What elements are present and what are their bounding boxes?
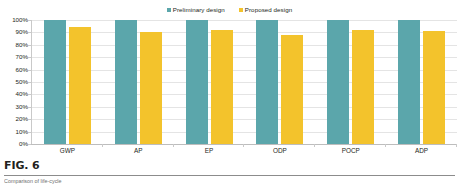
figure-caption-text: Comparison of life-cycle (4, 178, 455, 184)
bar-group-odp (244, 20, 315, 144)
y-axis-tick-mark (28, 45, 31, 46)
x-axis-tick-label-odp: ODP (244, 148, 315, 154)
y-axis-tick-label: 10% (16, 128, 28, 134)
bar-pocp-series-0[interactable] (327, 20, 349, 144)
bar-ap-series-0[interactable] (115, 20, 137, 144)
y-axis: 0%10%20%30%40%50%60%70%80%90%100% (0, 20, 30, 144)
x-axis-tick-label-gwp: GWP (32, 148, 103, 154)
figure-number: FIG. 6 (4, 160, 455, 172)
y-axis-tick-label: 50% (16, 79, 28, 85)
square-swatch-icon (167, 8, 171, 12)
y-axis-tick-label: 40% (16, 91, 28, 97)
chart-plot-area: 0%10%20%30%40%50%60%70%80%90%100% GWPAPE… (0, 20, 459, 158)
y-axis-tick-label: 0% (19, 141, 28, 147)
caption-divider (4, 175, 455, 176)
bar-odp-series-0[interactable] (256, 20, 278, 144)
y-axis-tick-mark (28, 57, 31, 58)
y-axis-tick-mark (28, 70, 31, 71)
bar-ep-series-0[interactable] (186, 20, 208, 144)
y-axis-tick-label: 100% (12, 17, 28, 23)
figure-caption-block: FIG. 6 Comparison of life-cycle (4, 160, 455, 184)
bar-group-ep (174, 20, 245, 144)
y-axis-tick-mark (28, 144, 31, 145)
bar-ap-series-1[interactable] (140, 32, 162, 144)
bar-group-ap (103, 20, 174, 144)
y-axis-tick-mark (28, 94, 31, 95)
legend-entry-preliminary-design[interactable]: Preliminary design (167, 7, 225, 13)
y-axis-tick-mark (28, 132, 31, 133)
y-axis-tick-mark (28, 32, 31, 33)
y-axis-tick-label: 80% (16, 42, 28, 48)
y-axis-tick-label: 20% (16, 116, 28, 122)
legend-label: Preliminary design (173, 7, 225, 13)
bar-group-pocp (315, 20, 386, 144)
figure-container: Preliminary design Proposed design 0%10%… (0, 0, 459, 190)
bar-gwp-series-0[interactable] (44, 20, 66, 144)
bar-odp-series-1[interactable] (281, 35, 303, 144)
x-axis-tick-label-pocp: POCP (315, 148, 386, 154)
y-axis-tick-mark (28, 107, 31, 108)
y-axis-tick-label: 70% (16, 54, 28, 60)
bar-ep-series-1[interactable] (211, 30, 233, 144)
x-axis-labels: GWPAPEPODPPOCPADP (32, 148, 457, 154)
y-axis-tick-label: 90% (16, 29, 28, 35)
bar-group-gwp (32, 20, 103, 144)
bar-adp-series-1[interactable] (423, 31, 445, 144)
bar-adp-series-0[interactable] (398, 20, 420, 144)
chart-legend: Preliminary design Proposed design (0, 4, 459, 16)
y-axis-tick-label: 60% (16, 66, 28, 72)
y-axis-tick-mark (28, 20, 31, 21)
y-axis-tick-label: 30% (16, 104, 28, 110)
y-axis-tick-mark (28, 119, 31, 120)
legend-label: Proposed design (245, 7, 292, 13)
x-axis-tick-label-adp: ADP (386, 148, 457, 154)
y-axis-tick-mark (28, 82, 31, 83)
legend-entry-proposed-design[interactable]: Proposed design (239, 7, 292, 13)
bar-pocp-series-1[interactable] (352, 30, 374, 144)
x-axis-tick-label-ep: EP (174, 148, 245, 154)
bar-group-adp (386, 20, 457, 144)
square-swatch-icon (239, 8, 243, 12)
bar-gwp-series-1[interactable] (69, 27, 91, 144)
bar-groups (32, 20, 457, 144)
x-axis-tick-label-ap: AP (103, 148, 174, 154)
